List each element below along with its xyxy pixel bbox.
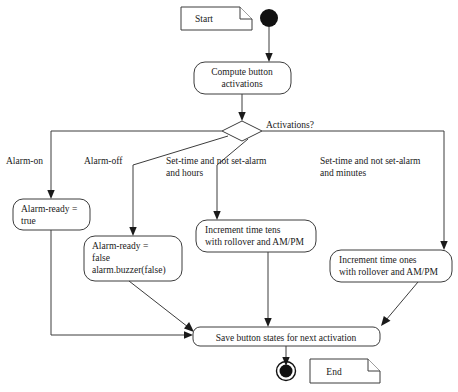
action-increment-ones-line1: Increment time ones xyxy=(339,255,417,265)
edge-increment-ones-to-save xyxy=(381,282,418,326)
end-note: End xyxy=(310,359,380,383)
action-increment-tens-line1: Increment time tens xyxy=(205,225,281,235)
action-compute-activations: Compute button activations xyxy=(194,62,291,94)
action-increment-tens-line2: with rollover and AM/PM xyxy=(205,237,305,247)
edge-increment-tens-to-save xyxy=(264,252,271,327)
arrowhead xyxy=(440,241,447,250)
action-save-button-states: Save button states for next activation xyxy=(193,327,380,346)
guard-label-alarm-on: Alarm-on xyxy=(6,156,43,166)
initial-node-dot xyxy=(260,9,278,27)
arrowhead xyxy=(184,322,194,332)
start-note: Start xyxy=(181,7,252,30)
arrowhead xyxy=(264,318,271,327)
start-note-label: Start xyxy=(195,14,213,24)
end-note-label: End xyxy=(326,367,342,377)
action-alarm-ready-false-line2: false xyxy=(92,253,110,263)
action-alarm-ready-false: Alarm-ready = false alarm.buzzer(false) xyxy=(84,236,182,281)
guard-label-set-time-minutes-line2: and minutes xyxy=(320,168,366,178)
edge-initial-to-compute xyxy=(265,27,272,62)
guard-label-set-time-hours-line1: Set-time and not set-alarm xyxy=(166,156,267,166)
decision-diamond xyxy=(222,121,262,141)
arrowhead xyxy=(265,53,272,62)
guard-label-set-time-hours-line2: and hours xyxy=(166,168,204,178)
initial-node xyxy=(260,9,278,27)
arrowhead xyxy=(213,211,220,220)
edge-compute-to-decision xyxy=(238,94,245,121)
action-alarm-ready-false-line3: alarm.buzzer(false) xyxy=(92,265,166,276)
edge-line xyxy=(133,136,228,229)
edge-line xyxy=(217,139,248,213)
action-compute-line2: activations xyxy=(221,79,262,89)
action-compute-line1: Compute button xyxy=(211,67,273,77)
edge-guard-set-time-hours: Set-time and not set-alarm and hours xyxy=(166,139,267,220)
action-save-label: Save button states for next activation xyxy=(216,333,357,343)
edge-line xyxy=(129,281,188,327)
diagram-canvas: Start Compute button activations Activat… xyxy=(0,0,458,392)
arrowhead xyxy=(238,112,245,121)
arrowhead xyxy=(129,227,136,236)
guard-label-set-time-minutes-line1: Set-time and not set-alarm xyxy=(320,156,421,166)
action-alarm-ready-true: Alarm-ready = true xyxy=(13,199,90,230)
edge-save-to-final xyxy=(282,346,289,366)
edge-alarm-ready-false-to-save xyxy=(129,281,194,332)
activity-diagram: Start Compute button activations Activat… xyxy=(0,0,458,392)
final-node-dot xyxy=(280,365,293,378)
action-increment-ones-line2: with rollover and AM/PM xyxy=(339,267,439,277)
action-alarm-ready-true-line2: true xyxy=(21,216,36,226)
arrowhead xyxy=(184,331,193,338)
arrowhead xyxy=(47,190,54,199)
edge-line xyxy=(386,282,418,320)
decision-label: Activations? xyxy=(266,120,314,130)
action-alarm-ready-true-line1: Alarm-ready = xyxy=(21,204,77,214)
end-note-fold-icon xyxy=(368,359,380,371)
action-increment-time-ones: Increment time ones with rollover and AM… xyxy=(330,250,452,282)
action-alarm-ready-false-line1: Alarm-ready = xyxy=(92,241,148,251)
guard-label-alarm-off: Alarm-off xyxy=(84,156,123,166)
action-increment-time-tens: Increment time tens with rollover and AM… xyxy=(196,220,316,252)
arrowhead xyxy=(381,316,391,326)
